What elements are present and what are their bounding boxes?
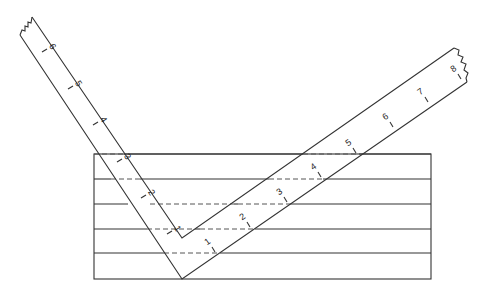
tick-mark [458, 74, 461, 79]
tick-mark [117, 159, 122, 162]
tick-mark [425, 97, 428, 102]
board [94, 154, 431, 279]
tick-mark [167, 231, 172, 234]
tick-mark [212, 247, 215, 252]
tick-mark [390, 122, 393, 127]
tick-label: 6 [47, 42, 58, 52]
tick-label: 5 [343, 137, 353, 148]
tick-label: 6 [380, 111, 390, 122]
tick-label: 3 [122, 152, 133, 162]
tick-mark [353, 148, 356, 153]
framing-square [20, 17, 468, 279]
square-outer-edge [20, 35, 467, 279]
square-inner-edge [32, 17, 454, 238]
left-arm-ticks: 123456 [42, 42, 183, 234]
tick-label: 7 [415, 86, 425, 97]
tick-mark [247, 222, 250, 227]
tick-label: 1 [202, 236, 212, 247]
board-outline [94, 154, 431, 279]
tick-mark [42, 49, 47, 52]
right-arm-ticks: 12345678 [202, 63, 461, 252]
tick-label: 4 [308, 161, 318, 172]
tick-label: 2 [146, 188, 157, 198]
tick-mark [93, 122, 98, 125]
tick-label: 8 [448, 63, 458, 74]
tick-mark [284, 197, 287, 202]
tick-mark [318, 172, 321, 177]
tick-mark [68, 86, 73, 89]
right-break-icon [454, 48, 468, 82]
framing-square-diagram: 123456 12345678 [0, 0, 490, 296]
tick-mark [141, 195, 146, 198]
left-break-icon [20, 17, 32, 35]
tick-label: 3 [274, 186, 284, 197]
tick-label: 2 [237, 211, 247, 222]
